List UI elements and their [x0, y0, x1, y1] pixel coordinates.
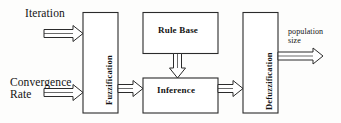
connector-fuzzification-to-inference [118, 81, 143, 97]
connector-inference-to-defuzzification [218, 81, 243, 97]
output-label-population-size: population size [288, 28, 323, 45]
block-diagram: Iteration Convergence Rate population si… [0, 0, 341, 123]
input-label-convergence-rate: Convergence Rate [10, 76, 72, 101]
block-label-fuzzification: Fuzzification [105, 55, 114, 105]
connector-defuzzification-to-population [278, 48, 323, 64]
connector-rule-base-to-inference [170, 54, 186, 79]
block-label-defuzzification: Defuzzification [265, 52, 274, 110]
block-label-inference: Inference [157, 86, 195, 96]
input-label-iteration: Iteration [25, 7, 65, 19]
block-label-rule-base: Rule Base [158, 26, 198, 36]
connector-iteration-to-fuzzification [44, 26, 83, 42]
